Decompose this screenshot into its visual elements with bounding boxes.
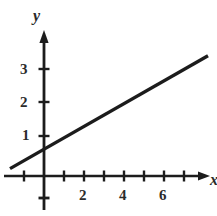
- coordinate-plane: [0, 0, 217, 216]
- x-axis: [4, 171, 210, 182]
- x-axis-arrowhead: [198, 172, 210, 181]
- graph-figure: y x 3 2 1 2 4 6: [0, 0, 217, 216]
- x-tick-label-4: 4: [119, 188, 127, 203]
- data-line-series: [10, 56, 208, 169]
- y-tick-label-2: 2: [20, 95, 28, 110]
- y-axis: [39, 30, 50, 210]
- y-axis-label: y: [33, 8, 40, 24]
- y-axis-arrowhead: [39, 30, 48, 43]
- y-tick-label-3: 3: [20, 62, 28, 77]
- y-tick-label-1: 1: [22, 128, 30, 143]
- x-tick-label-6: 6: [159, 188, 167, 203]
- x-axis-label: x: [210, 172, 217, 188]
- x-tick-label-2: 2: [79, 188, 87, 203]
